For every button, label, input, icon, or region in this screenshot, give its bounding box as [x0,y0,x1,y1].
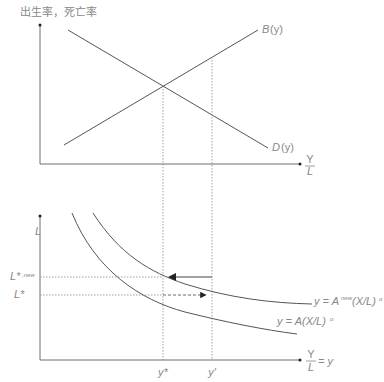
svg-text:new: new [341,295,353,301]
malthus-diagram: 出生率，死亡率 Y L B (y) D (y) L Y L = y [0,0,384,382]
svg-text:B: B [262,23,269,35]
top-x-axis-label: Y L [305,153,315,177]
death-rate-line [68,30,268,148]
svg-text:L: L [307,165,313,177]
birth-rate-label: B (y) [262,23,283,35]
svg-text:Y: Y [306,153,314,165]
curve-original-label: y = A(X/L) α [276,315,334,327]
svg-text:L*: L* [10,270,21,282]
svg-text:L: L [308,361,314,373]
svg-text:= y: = y [318,355,334,367]
svg-text:α: α [379,296,383,302]
svg-text:Y: Y [307,348,315,360]
death-rate-label: D (y) [272,141,294,153]
birth-rate-line [64,30,258,145]
svg-text:,new: ,new [22,272,35,278]
svg-text:α: α [330,316,334,322]
curve-new-label: y = A new (X/L) α [313,295,383,307]
svg-text:(X/L): (X/L) [352,295,376,307]
svg-text:D: D [272,141,280,153]
production-curve-new [93,213,312,304]
svg-text:y = A(X/L): y = A(X/L) [276,315,326,327]
top-x-axis [40,163,302,166]
top-y-axis [39,24,42,165]
bottom-x-axis-label: Y L = y [306,348,334,373]
svg-text:(y): (y) [281,141,294,153]
L-new-tick-label: L* ,new [10,270,35,282]
y-star-tick-label: y* [157,366,169,378]
svg-text:(y): (y) [270,23,283,35]
top-y-axis-label: 出生率，死亡率 [20,5,97,19]
svg-text:y = A: y = A [313,295,339,307]
bottom-x-axis [40,359,302,362]
L-star-tick-label: L* [14,288,25,300]
y-prime-tick-label: y' [207,366,217,378]
